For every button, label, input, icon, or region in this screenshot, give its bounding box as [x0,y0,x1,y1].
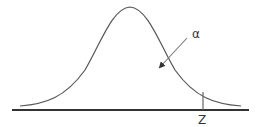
critical-value-label: Z [198,113,206,127]
alpha-label: α [192,27,200,41]
bell-curve [20,7,241,106]
normal-distribution-diagram: α Z [0,0,259,127]
